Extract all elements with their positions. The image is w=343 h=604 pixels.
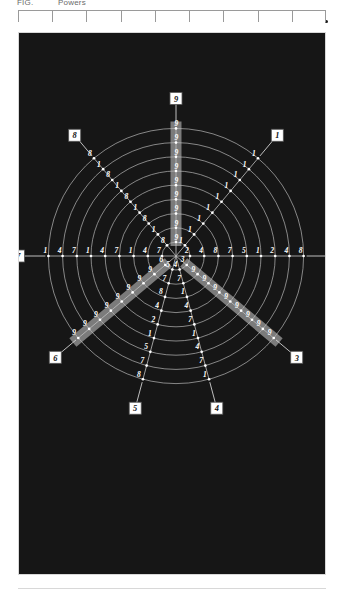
- data-point: [99, 318, 102, 321]
- data-point: [153, 337, 156, 340]
- data-point-label: 7: [115, 246, 120, 255]
- ruler-tick: [223, 10, 224, 22]
- data-point: [142, 378, 145, 381]
- data-point: [245, 255, 248, 258]
- data-point-label: 9: [268, 328, 272, 337]
- data-point-label: 9: [175, 119, 179, 128]
- data-point: [132, 255, 135, 258]
- ruler-tick: [52, 10, 53, 22]
- data-point-label: 2: [184, 246, 189, 255]
- spoke-label-4[interactable]: 4: [211, 402, 223, 414]
- data-point-label: 4: [142, 246, 147, 255]
- data-point-label: 8: [124, 192, 128, 201]
- data-point-label: 9: [116, 292, 120, 301]
- data-point: [262, 328, 265, 331]
- data-point: [111, 179, 114, 182]
- data-point-label: 8: [299, 246, 303, 255]
- spoke-label-7[interactable]: 7: [19, 250, 24, 262]
- data-point: [157, 233, 160, 236]
- data-point-label: 8: [161, 236, 165, 245]
- data-point: [160, 309, 163, 312]
- data-point-label: 9: [257, 319, 261, 328]
- spoke-label-1[interactable]: 1: [271, 129, 283, 141]
- ruler-tick: [325, 10, 326, 22]
- data-point: [145, 364, 148, 367]
- data-point: [47, 255, 50, 258]
- data-point: [229, 190, 232, 193]
- data-point-label: 9: [137, 274, 141, 283]
- data-point: [149, 350, 152, 353]
- data-point: [129, 200, 132, 203]
- spoke-label-9[interactable]: 9: [170, 92, 182, 104]
- data-point-label: 1: [256, 246, 260, 255]
- data-point-label: 1: [197, 214, 201, 223]
- data-point-label: 1: [115, 181, 119, 190]
- data-point-label: 9: [105, 301, 109, 310]
- data-point-label: 1: [243, 160, 247, 169]
- data-point-label: 1: [134, 203, 138, 212]
- data-point-label: 1: [192, 329, 196, 338]
- data-point-label: 7: [141, 356, 146, 365]
- data-point-label: 4: [99, 246, 104, 255]
- data-point: [257, 157, 260, 160]
- polar-chart-svg: 1111111111248751248239999999934714714714…: [19, 33, 325, 574]
- data-point-label: 4: [154, 301, 159, 310]
- data-point: [118, 255, 121, 258]
- data-point: [193, 323, 196, 326]
- data-point: [197, 337, 200, 340]
- data-point-label: 8: [214, 246, 218, 255]
- data-point-label: 1: [188, 225, 192, 234]
- data-point: [142, 282, 145, 285]
- data-point: [182, 282, 185, 285]
- data-point-label: 8: [106, 170, 110, 179]
- figure-header: FIG. Powers: [0, 0, 343, 32]
- spoke-label-text: 1: [275, 131, 279, 140]
- data-point: [167, 282, 170, 285]
- data-point-label: 9: [83, 319, 87, 328]
- data-point-label: 1: [252, 149, 256, 158]
- data-point: [211, 211, 214, 214]
- data-point: [164, 264, 167, 267]
- ruler-line: [18, 10, 326, 11]
- data-point: [272, 337, 275, 340]
- data-point-label: 9: [192, 265, 196, 274]
- spoke-label-text: 4: [214, 404, 219, 413]
- chart-panel: 1111111111248751248239999999934714714714…: [18, 32, 326, 575]
- data-point-label: 4: [198, 246, 203, 255]
- data-point: [207, 282, 210, 285]
- data-point-label: 9: [224, 292, 228, 301]
- data-point-label: 8: [159, 287, 163, 296]
- spoke-label-8[interactable]: 8: [69, 129, 81, 141]
- spoke-label-text: 5: [133, 404, 137, 413]
- data-point-label: 9: [175, 176, 179, 185]
- data-point-label: 1: [203, 370, 207, 379]
- spoke-label-5[interactable]: 5: [129, 402, 141, 414]
- data-point: [218, 291, 221, 294]
- footer-rule: [18, 588, 326, 589]
- data-point: [231, 255, 234, 258]
- spoke-label-3[interactable]: 3: [291, 351, 303, 363]
- data-point: [138, 211, 141, 214]
- data-point-label: 1: [215, 192, 219, 201]
- data-point: [166, 244, 169, 247]
- data-point: [185, 264, 188, 267]
- data-point: [120, 300, 123, 303]
- data-point-label: 9: [148, 265, 152, 274]
- data-point-label: 9: [175, 190, 179, 199]
- data-point: [189, 309, 192, 312]
- spoke-label-6[interactable]: 6: [49, 351, 61, 363]
- data-point-label: 9: [213, 283, 217, 292]
- ruler-tick: [189, 10, 190, 22]
- data-point-label: 1: [181, 287, 185, 296]
- data-point: [200, 350, 203, 353]
- data-point-label: 9: [175, 204, 179, 213]
- data-point: [156, 323, 159, 326]
- data-point: [260, 255, 263, 258]
- data-point-label: 9: [175, 133, 179, 142]
- data-point-label: 8: [137, 370, 141, 379]
- data-point: [204, 364, 207, 367]
- data-point-label: 5: [144, 342, 148, 351]
- data-point-label: 1: [148, 329, 152, 338]
- data-point: [229, 300, 232, 303]
- data-point: [104, 255, 107, 258]
